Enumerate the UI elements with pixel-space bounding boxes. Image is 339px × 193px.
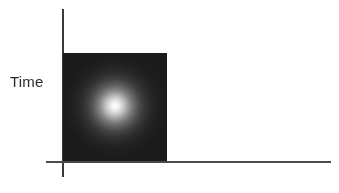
y-axis-label: Time xyxy=(10,71,56,93)
figure-canvas: Time xyxy=(0,0,339,193)
noise-texture-overlay xyxy=(63,53,167,161)
intensity-map-panel xyxy=(63,53,167,161)
x-axis-line xyxy=(46,161,331,163)
